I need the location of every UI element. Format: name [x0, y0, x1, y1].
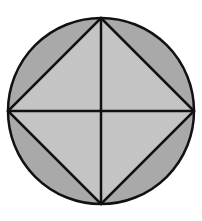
- inscribed-square-diagram: [0, 0, 202, 221]
